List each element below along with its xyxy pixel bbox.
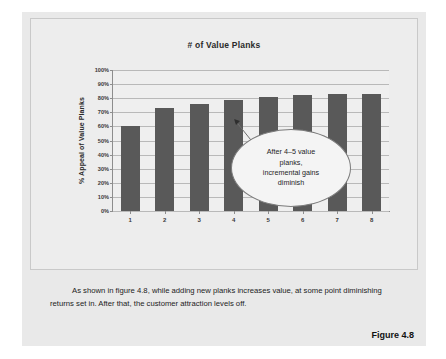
y-tick-label: 80%: [98, 95, 109, 101]
figure-caption: As shown in figure 4.8, while adding new…: [50, 284, 402, 310]
callout-line-2: planks,: [280, 158, 303, 168]
y-tick-mark: [110, 211, 113, 212]
callout-line-4: diminish: [278, 178, 304, 188]
y-axis-label: % Appeal of Value Planks: [78, 70, 92, 211]
x-tick-label: 4: [232, 217, 235, 223]
callout-annotation: After 4–5 value planks, incremental gain…: [231, 129, 351, 207]
y-tick-label: 50%: [98, 138, 109, 144]
y-tick-label: 10%: [98, 194, 109, 200]
x-tick-mark: [130, 211, 131, 214]
x-tick-label: 7: [336, 217, 339, 223]
x-tick-label: 2: [163, 217, 166, 223]
bar-slot: 3: [182, 70, 217, 211]
x-tick-label: 3: [198, 217, 201, 223]
figure-chart-container: # of Value Planks % Appeal of Value Plan…: [30, 18, 418, 270]
x-tick-mark: [165, 211, 166, 214]
x-tick-label: 1: [129, 217, 132, 223]
chart-title: # of Value Planks: [31, 40, 417, 50]
bar: [362, 94, 381, 211]
y-tick-label: 70%: [98, 109, 109, 115]
y-tick-label: 30%: [98, 166, 109, 172]
bar-slot: 1: [113, 70, 148, 211]
book-page-panel: # of Value Planks % Appeal of Value Plan…: [22, 12, 426, 346]
x-tick-mark: [268, 211, 269, 214]
bar-slot: 8: [355, 70, 390, 211]
x-tick-mark: [303, 211, 304, 214]
bar: [190, 104, 209, 211]
x-tick-label: 8: [370, 217, 373, 223]
bar: [121, 126, 140, 211]
x-tick-label: 5: [267, 217, 270, 223]
y-tick-label: 20%: [98, 180, 109, 186]
bar-slot: 2: [148, 70, 183, 211]
callout-line-1: After 4–5 value: [267, 147, 315, 157]
x-tick-mark: [199, 211, 200, 214]
bar: [155, 108, 174, 211]
y-tick-label: 100%: [95, 67, 109, 73]
y-tick-label: 60%: [98, 123, 109, 129]
figure-number: Figure 4.8: [371, 330, 414, 340]
y-tick-label: 90%: [98, 81, 109, 87]
screenshot-root: # of Value Planks % Appeal of Value Plan…: [0, 0, 446, 359]
x-tick-mark: [337, 211, 338, 214]
x-tick-mark: [372, 211, 373, 214]
x-tick-mark: [234, 211, 235, 214]
x-tick-label: 6: [301, 217, 304, 223]
y-tick-label: 40%: [98, 152, 109, 158]
y-tick-label: 0%: [101, 208, 109, 214]
gridline: [113, 211, 389, 212]
callout-line-3: incremental gains: [263, 168, 319, 178]
